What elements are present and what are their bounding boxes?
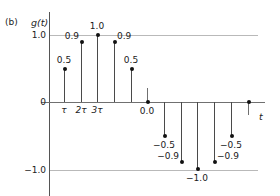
data-point-label: −0.9 [151, 152, 179, 161]
data-point-marker [80, 40, 84, 44]
stem-line [214, 102, 215, 162]
data-point-label: −1.0 [183, 174, 211, 183]
data-point-marker [96, 33, 100, 37]
y-axis-title: g(t) [31, 18, 48, 28]
data-point-marker [213, 160, 217, 164]
y-tick-label-1: 1.0 [14, 31, 46, 40]
data-point-marker [196, 167, 200, 171]
y-axis-line [49, 12, 50, 196]
stem-line [197, 102, 198, 169]
stem-line [64, 69, 65, 103]
panel-label: (b) [5, 18, 18, 27]
data-point-label: −0.9 [217, 152, 245, 161]
data-point-label: −0.5 [217, 141, 245, 150]
stem-line [164, 102, 165, 136]
x-tick-label: 3τ [87, 106, 107, 115]
data-point-label: 0.5 [50, 56, 78, 65]
stem-line [231, 102, 232, 136]
y-tick-label-0: 0 [14, 98, 46, 107]
stem-line [181, 102, 182, 162]
data-point-marker [130, 67, 134, 71]
gridline-positive-one [49, 35, 258, 36]
data-point-marker [63, 67, 67, 71]
gridline-negative-one [49, 170, 258, 171]
stem-line [97, 35, 98, 102]
data-point-marker [247, 100, 251, 104]
data-point-label: 0.9 [51, 32, 79, 41]
y-tick-label-neg1: −1.0 [6, 166, 46, 175]
data-point-marker [163, 134, 167, 138]
stem-plot-figure: (b) g(t) t 1.0 0 −1.0 τ2τ3τ 0.50.91.00.9… [0, 0, 280, 196]
data-point-label: 1.0 [83, 22, 111, 31]
stem-line [131, 69, 132, 103]
data-point-marker [113, 40, 117, 44]
stem-line [81, 42, 82, 102]
x-axis-title: t [259, 112, 263, 122]
stem-line [114, 42, 115, 102]
data-point-marker [180, 160, 184, 164]
data-point-marker [230, 134, 234, 138]
data-point-label: 0.0 [133, 107, 161, 116]
data-point-marker [146, 100, 150, 104]
data-point-label: 0.5 [117, 56, 145, 65]
data-point-label: 0.9 [117, 32, 145, 41]
data-point-label: −0.5 [150, 141, 178, 150]
